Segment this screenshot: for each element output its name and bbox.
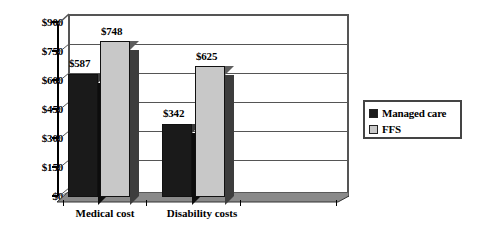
legend-swatch-icon xyxy=(369,125,378,134)
legend: Managed care FFS xyxy=(363,100,462,139)
value-label-disability-managed-care: $342 xyxy=(163,107,184,119)
legend-item-managed-care: Managed care xyxy=(369,105,456,121)
x-axis-category-disability-costs: Disability costs xyxy=(152,207,252,219)
value-label-medical-ffs: $748 xyxy=(101,25,122,37)
legend-item-ffs: FFS xyxy=(369,121,456,137)
bar-medical-cost-managed-care xyxy=(68,14,98,197)
x-tick xyxy=(240,200,241,206)
bar-medical-cost-ffs xyxy=(100,14,130,197)
legend-label: Managed care xyxy=(382,107,446,119)
value-label-medical-managed-care: $587 xyxy=(69,57,90,69)
bar-disability-costs-managed-care xyxy=(162,14,192,197)
bar-chart: $900 $750 $600 $450 $300 $150 $0 xyxy=(0,0,483,244)
x-axis-category-medical-cost: Medical cost xyxy=(63,207,147,219)
y-axis-line xyxy=(57,22,59,197)
legend-label: FFS xyxy=(382,123,401,135)
bar-disability-costs-ffs xyxy=(195,14,225,197)
value-label-disability-ffs: $625 xyxy=(196,50,217,62)
x-tick xyxy=(63,200,64,206)
x-tick xyxy=(336,200,337,206)
x-tick xyxy=(146,200,147,206)
legend-swatch-icon xyxy=(369,109,378,118)
